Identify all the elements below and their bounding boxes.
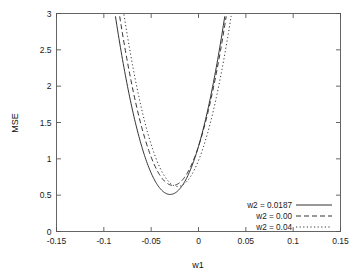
axis-ticks [57, 14, 341, 232]
y-tick-label-0: 0 [47, 227, 52, 237]
x-tick-label-2: -0.05 [141, 236, 161, 246]
y-tick-label-5: 2.5 [40, 45, 52, 55]
plot-canvas: -0.15-0.1-0.0500.050.10.15 00.511.522.53… [0, 0, 361, 279]
curve-series-0 [115, 16, 224, 194]
x-tick-label-3: 0 [196, 236, 201, 246]
legend-label-0: w2 = 0.0187 [246, 201, 292, 210]
x-axis-title: w1 [191, 260, 204, 270]
plot-frame [57, 14, 341, 232]
y-axis-title: MSE [10, 113, 20, 133]
x-tick-label-1: -0.1 [97, 236, 112, 246]
curve-series-2 [124, 14, 231, 186]
legend-label-2: w2 = 0.04 [255, 223, 292, 232]
y-tick-label-2: 1 [47, 154, 52, 164]
legend-label-1: w2 = 0.00 [255, 212, 292, 221]
legend: w2 = 0.0187w2 = 0.00w2 = 0.04 [246, 201, 332, 232]
y-tick-label-6: 3 [47, 9, 52, 19]
x-tick-label-6: 0.15 [332, 236, 349, 246]
y-tick-label-1: 0.5 [40, 190, 52, 200]
y-tick-label-4: 2 [47, 81, 52, 91]
mse-vs-w1-chart: -0.15-0.1-0.0500.050.10.15 00.511.522.53… [0, 0, 361, 279]
x-tick-label-4: 0.05 [238, 236, 255, 246]
x-tick-label-5: 0.1 [287, 236, 299, 246]
y-tick-labels: 00.511.522.53 [40, 9, 52, 237]
x-tick-label-0: -0.15 [47, 236, 67, 246]
data-curves [115, 14, 231, 194]
x-tick-labels: -0.15-0.1-0.0500.050.10.15 [47, 236, 349, 246]
y-tick-label-3: 1.5 [40, 118, 52, 128]
